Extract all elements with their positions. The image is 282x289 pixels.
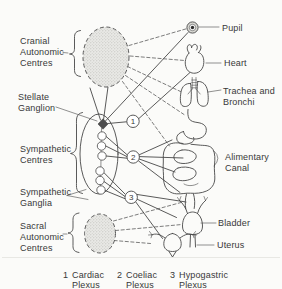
line-node3-to-rectum	[137, 195, 186, 203]
legend-1-number: 1	[63, 270, 68, 280]
diagram-svg: 1 2 3	[0, 0, 282, 289]
stellate-label-line2: Ganglion	[18, 103, 55, 113]
sympathetic-centres-label-line1: Sympathetic	[20, 144, 72, 154]
ganglion-circle-2	[97, 142, 105, 150]
dashed-line-sacral-to-bladder	[116, 225, 183, 231]
legend-1-name: Cardiac	[72, 270, 104, 280]
ganglion-circle-1	[98, 132, 106, 140]
plexus-node-2-number: 2	[131, 153, 136, 162]
trachea-leader-line	[208, 90, 221, 92]
trachea-label-line2: Bronchi	[223, 97, 255, 107]
uterus-label: Uterus	[217, 240, 245, 250]
line-node2-to-canal-2	[139, 157, 183, 158]
plexus-node-1-number: 1	[131, 117, 136, 126]
sacral-brace	[68, 213, 79, 253]
bladder-label: Bladder	[218, 218, 250, 228]
legend-2-name: Coeliac	[126, 270, 157, 280]
organ-labels: Pupil Heart Trachea and Bronchi Alimenta…	[217, 23, 275, 251]
sacral-label-line3: Centres	[20, 243, 53, 253]
plexus-node-3-number: 3	[129, 193, 134, 202]
cranial-label-line2: Autonomic	[20, 47, 64, 57]
dashed-line-cranial-to-gut	[123, 82, 170, 147]
pupil-label: Pupil	[222, 23, 243, 33]
plexus-legend: 1 Cardiac Plexus 2 Coeliac Plexus 3 Hypo…	[63, 270, 229, 289]
plexus-node-1: 1	[127, 115, 139, 127]
dashed-line-cranial-to-heart	[130, 56, 185, 61]
stellate-label-line1: Stellate	[18, 92, 49, 102]
line-node2-to-canal-1	[139, 140, 172, 155]
line-node3-to-uterus	[136, 202, 163, 239]
heart-label: Heart	[224, 58, 247, 68]
legend-1-type: Plexus	[72, 280, 100, 289]
cranial-centres-ellipse	[83, 27, 129, 87]
pupil-icon	[187, 22, 198, 33]
cranial-label-line1: Cranial	[20, 36, 50, 46]
sacral-centres-ellipse	[85, 214, 116, 253]
sacral-label-line2: Autonomic	[20, 232, 64, 242]
plexus-node-3: 3	[125, 191, 137, 203]
ganglion-circle-5	[96, 176, 104, 184]
heart-icon	[185, 44, 204, 73]
alimentary-label-line1: Alimentary	[225, 152, 269, 162]
plexus-node-2: 2	[127, 151, 139, 163]
dashed-line-cranial-to-stomach	[126, 76, 185, 115]
cranial-label-line3: Centres	[20, 58, 53, 68]
sympathetic-centres-brace	[71, 113, 83, 194]
line-node1-to-heart	[139, 73, 190, 119]
autonomic-nervous-system-diagram: 1 2 3	[0, 0, 282, 289]
left-labels: Cranial Autonomic Centres Stellate Gangl…	[18, 36, 72, 253]
legend-2-type: Plexus	[126, 280, 154, 289]
sacral-label-line1: Sacral	[20, 221, 46, 231]
legend-3-type: Plexus	[179, 280, 207, 289]
trachea-label-line1: Trachea and	[223, 86, 275, 96]
uterus-icon	[149, 232, 197, 258]
alimentary-label-line2: Canal	[225, 163, 249, 173]
ganglion-circle-6	[97, 186, 105, 194]
dashed-line-sacral-to-uterus	[114, 241, 151, 244]
legend-3-number: 3	[170, 270, 175, 280]
line-node3-to-bladder	[137, 199, 176, 217]
alimentary-canal-icon	[163, 110, 215, 210]
ganglion-circle-3	[98, 152, 106, 160]
legend-2-number: 2	[117, 270, 122, 280]
sacral-dashed-lines	[114, 203, 183, 244]
sympathetic-ganglia-label-line1: Sympathetic	[20, 187, 72, 197]
cranial-brace	[70, 31, 81, 77]
legend-3-name: Hypogastric	[179, 270, 229, 280]
line-ganglion3-to-node2	[106, 156, 127, 158]
cranial-dashed-lines	[123, 29, 187, 146]
ganglion-circle-4	[96, 167, 104, 175]
sympathetic-ganglia-label-line2: Ganglia	[20, 198, 52, 208]
bladder-icon	[178, 197, 208, 248]
sympathetic-chain	[80, 114, 118, 194]
sympathetic-centres-label-line2: Centres	[20, 155, 53, 165]
trachea-bronchi-icon	[180, 78, 208, 107]
